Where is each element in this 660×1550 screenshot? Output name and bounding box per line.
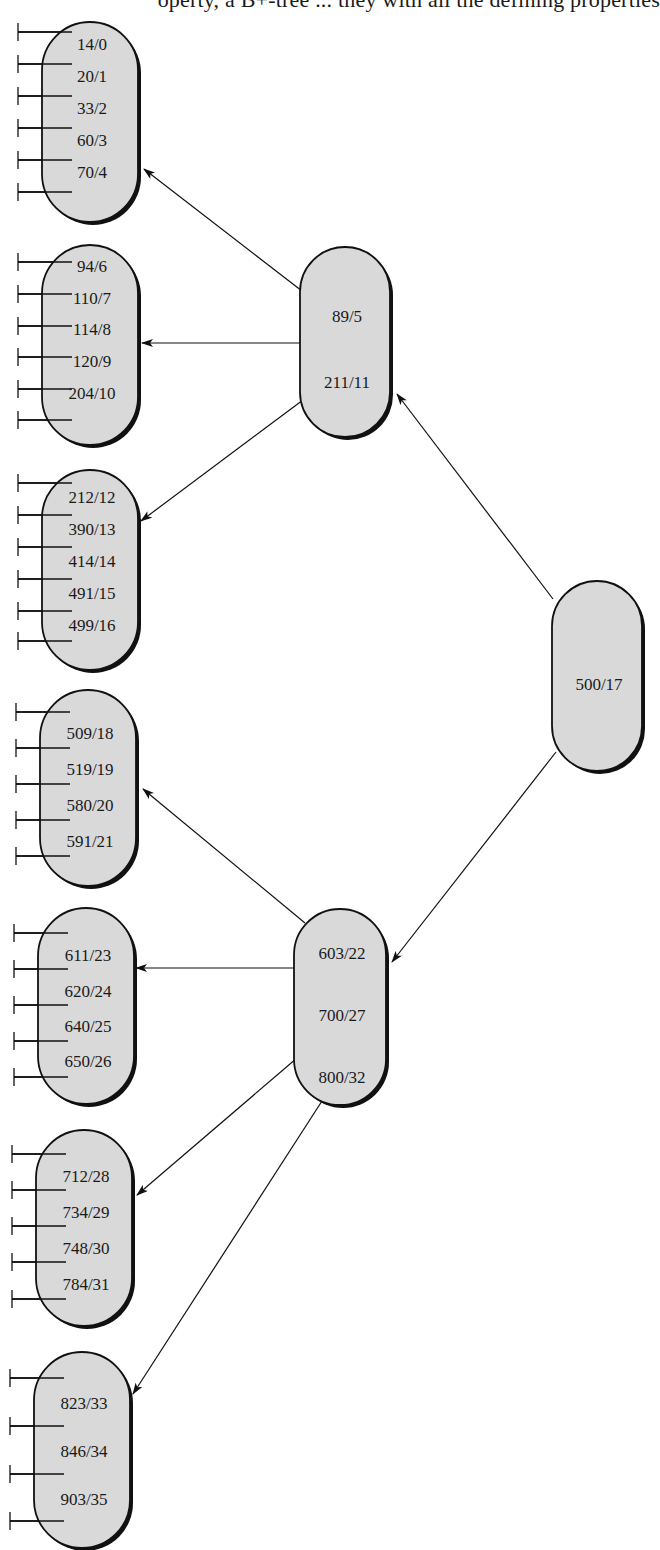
key-entry: 580/20 [66, 796, 113, 815]
key-entry: 846/34 [60, 1442, 108, 1461]
key-entry: 784/31 [62, 1275, 109, 1294]
key-entry: 611/23 [65, 946, 112, 965]
key-entry: 591/21 [66, 832, 113, 851]
tree-nodes: 500/1789/5211/11603/22700/27800/3214/020… [10, 22, 645, 1550]
key-entry: 120/9 [73, 352, 112, 371]
key-entry: 712/28 [62, 1167, 109, 1186]
key-entry: 823/33 [60, 1394, 107, 1413]
node-capsule [36, 1130, 132, 1326]
key-entry: 211/11 [324, 373, 370, 392]
key-entry: 640/25 [64, 1017, 111, 1036]
key-entry: 94/6 [77, 257, 107, 276]
key-entry: 204/10 [68, 384, 115, 403]
key-entry: 414/14 [68, 552, 116, 571]
leaf-node: 212/12390/13414/14491/15499/16 [18, 470, 141, 673]
key-entry: 114/8 [73, 320, 111, 339]
b-plus-tree-diagram: 500/1789/5211/11603/22700/27800/3214/020… [0, 0, 660, 1550]
key-entry: 903/35 [60, 1490, 107, 1509]
key-entry: 33/2 [77, 99, 107, 118]
key-entry: 70/4 [77, 163, 108, 182]
key-entry: 620/24 [64, 982, 112, 1001]
key-entry: 14/0 [77, 35, 107, 54]
key-entry: 390/13 [68, 520, 115, 539]
leaf-node: 94/6110/7114/8120/9204/10 [18, 245, 141, 448]
node-capsule [300, 247, 390, 437]
key-entry: 20/1 [77, 67, 107, 86]
key-entry: 509/18 [66, 724, 113, 743]
key-entry: 603/22 [318, 944, 365, 963]
key-entry: 734/29 [62, 1203, 109, 1222]
leaf-node: 712/28734/29748/30784/31 [12, 1130, 135, 1329]
child-pointer-arrow [133, 1101, 322, 1394]
internal-node: 89/5211/11 [300, 247, 393, 440]
key-entry: 800/32 [318, 1068, 365, 1087]
leaf-node: 14/020/133/260/370/4 [18, 22, 141, 225]
child-pointer-arrow [137, 1058, 297, 1195]
child-pointer-arrow [144, 169, 302, 291]
leaf-node: 509/18519/19580/20591/21 [16, 690, 139, 889]
key-entry: 519/19 [66, 760, 113, 779]
key-entry: 212/12 [68, 488, 115, 507]
child-pointer-arrow [141, 400, 303, 521]
key-entry: 650/26 [64, 1052, 111, 1071]
key-entry: 748/30 [62, 1239, 109, 1258]
key-entry: 499/16 [68, 616, 115, 635]
key-entry: 491/15 [68, 584, 115, 603]
node-capsule [38, 908, 134, 1104]
child-pointer-arrow [143, 789, 305, 923]
root-node: 500/17 [552, 581, 645, 774]
child-pointer-arrow [392, 752, 556, 962]
leaf-node: 611/23620/24640/25650/26 [14, 908, 137, 1107]
key-entry: 700/27 [318, 1006, 366, 1025]
key-entry: 60/3 [77, 131, 107, 150]
key-entry: 110/7 [73, 289, 112, 308]
child-pointer-arrow [397, 394, 553, 599]
internal-node: 603/22700/27800/32 [294, 909, 389, 1108]
key-entry: 500/17 [575, 675, 623, 694]
key-entry: 89/5 [332, 307, 362, 326]
leaf-node: 823/33846/34903/35 [10, 1352, 133, 1550]
